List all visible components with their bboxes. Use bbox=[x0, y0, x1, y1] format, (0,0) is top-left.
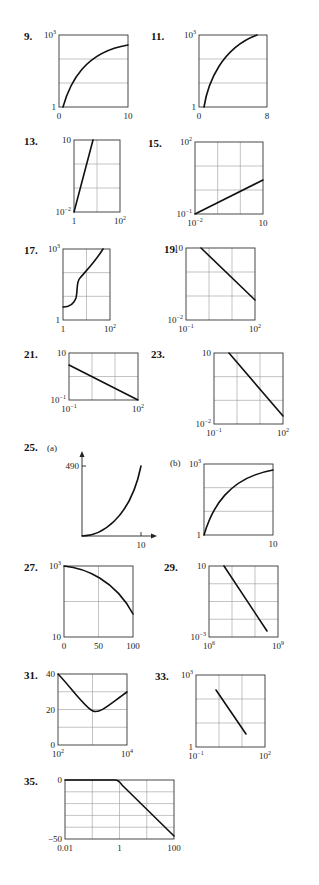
problem-number: 21. bbox=[24, 348, 38, 360]
y-tick-label: 20 bbox=[46, 705, 56, 715]
plot-frame bbox=[186, 248, 255, 320]
x-tick-label: 1 bbox=[117, 843, 122, 853]
x-tick-label: 102 bbox=[259, 750, 271, 761]
x-tick-label: 102 bbox=[277, 427, 289, 438]
plot-frame bbox=[195, 142, 263, 214]
problem-number: 19. bbox=[164, 243, 178, 255]
y-tick-label: 40 bbox=[46, 669, 56, 679]
chart-21: 1010−110−110221. bbox=[24, 348, 144, 414]
y-tick-label: 490 bbox=[66, 461, 80, 471]
problem-number: 25. bbox=[24, 441, 38, 453]
y-tick-label: 10 bbox=[52, 632, 62, 642]
data-curve bbox=[82, 466, 141, 536]
sublabel: (b) bbox=[170, 458, 181, 468]
y-tick-label: 103 bbox=[48, 243, 60, 254]
data-curve bbox=[69, 365, 138, 400]
x-tick-label: 102 bbox=[249, 323, 261, 334]
graphs-canvas: 10310109.10310811.1010−2110213.10210−110… bbox=[0, 0, 319, 885]
chart-23: 1010−210−110223. bbox=[151, 348, 289, 438]
x-tick-label: 0.01 bbox=[57, 843, 73, 853]
y-tick-label: 102 bbox=[180, 136, 192, 147]
problem-number: 17. bbox=[24, 244, 38, 256]
x-tick-label: 10−1 bbox=[61, 403, 76, 414]
data-curve bbox=[63, 45, 128, 107]
problem-number: 33. bbox=[155, 670, 169, 682]
y-tick-label: 10 bbox=[57, 348, 67, 358]
data-curve bbox=[224, 566, 267, 631]
chart-35: 0−500.01110035. bbox=[24, 775, 181, 853]
chart-9: 10310109. bbox=[24, 29, 133, 121]
x-tick-label: 10 bbox=[269, 539, 279, 549]
data-curve bbox=[204, 470, 273, 535]
x-tick-label: 10 bbox=[137, 540, 147, 550]
chart-33: 103110−110233. bbox=[155, 669, 271, 761]
x-tick-label: 10−1 bbox=[206, 427, 221, 438]
chart-11: 10310811. bbox=[151, 29, 270, 121]
y-tick-label: 103 bbox=[49, 560, 61, 571]
x-tick-label: 10 bbox=[259, 218, 269, 228]
sublabel: (a) bbox=[47, 443, 57, 453]
problem-number: 31. bbox=[24, 669, 38, 681]
x-tick-label: 109 bbox=[272, 640, 284, 651]
plot-frame bbox=[214, 353, 283, 424]
x-tick-label: 0 bbox=[62, 641, 67, 651]
x-tick-label: 0 bbox=[197, 111, 202, 121]
x-tick-label: 102 bbox=[114, 215, 126, 226]
problem-number: 35. bbox=[24, 775, 38, 787]
x-tick-label: 10−1 bbox=[178, 323, 193, 334]
answer-graphs-page: 10310109.10310811.1010−2110213.10210−110… bbox=[0, 0, 319, 885]
y-tick-label: 1 bbox=[56, 315, 61, 325]
x-tick-label: 0 bbox=[57, 111, 62, 121]
y-tick-label: 1 bbox=[197, 530, 202, 540]
x-tick-label: 1 bbox=[61, 324, 66, 334]
data-curve bbox=[195, 180, 263, 214]
y-tick-label: 103 bbox=[189, 458, 201, 469]
problem-number: 27. bbox=[24, 561, 38, 573]
x-tick-label: 100 bbox=[126, 641, 140, 651]
data-curve bbox=[216, 690, 246, 734]
x-tick-label: 102 bbox=[52, 748, 64, 759]
problem-number: 23. bbox=[151, 348, 165, 360]
chart-27: 1031005010027. bbox=[24, 560, 140, 651]
x-tick-label: 50 bbox=[94, 641, 104, 651]
chart-31: 4020010210431. bbox=[24, 669, 133, 759]
problem-number: 11. bbox=[151, 30, 164, 42]
chart-25a: 4901025.(a) bbox=[24, 441, 157, 550]
x-tick-label: 102 bbox=[132, 403, 144, 414]
x-tick-label: 106 bbox=[203, 640, 215, 651]
y-arrow-icon bbox=[80, 451, 85, 457]
chart-15: 10210−110−21015. bbox=[148, 136, 268, 228]
chart-17: 1031110217. bbox=[24, 243, 116, 334]
y-tick-label: 0 bbox=[58, 775, 63, 785]
data-curve bbox=[74, 140, 93, 212]
y-tick-label: 1 bbox=[192, 102, 197, 112]
x-tick-label: 102 bbox=[104, 323, 116, 334]
x-tick-label: 104 bbox=[121, 748, 133, 759]
plot-frame bbox=[199, 35, 267, 107]
y-tick-label: 10 bbox=[197, 561, 207, 571]
y-tick-label: 10 bbox=[202, 348, 212, 358]
data-curve bbox=[63, 249, 103, 307]
y-tick-label: 103 bbox=[181, 669, 193, 680]
chart-19: 1010−210−110219. bbox=[164, 243, 261, 334]
x-arrow-icon bbox=[151, 534, 157, 539]
plot-frame bbox=[204, 464, 273, 535]
x-tick-label: 10−1 bbox=[188, 750, 203, 761]
x-tick-label: 10 bbox=[124, 111, 134, 121]
y-tick-label: 1 bbox=[52, 102, 57, 112]
x-tick-label: 1 bbox=[72, 216, 77, 226]
problem-number: 15. bbox=[148, 137, 162, 149]
y-tick-label: 103 bbox=[44, 29, 56, 40]
y-tick-label: 10−2 bbox=[56, 206, 71, 217]
problem-number: 29. bbox=[164, 561, 178, 573]
chart-25b: 103110(b) bbox=[170, 458, 278, 549]
x-tick-label: 100 bbox=[167, 843, 181, 853]
x-tick-label: 10−2 bbox=[187, 217, 202, 228]
problem-number: 13. bbox=[24, 135, 38, 147]
y-tick-label: 103 bbox=[184, 29, 196, 40]
problem-number: 9. bbox=[24, 30, 33, 42]
y-tick-label: 10 bbox=[62, 135, 72, 145]
chart-13: 1010−2110213. bbox=[24, 135, 126, 226]
plot-frame bbox=[59, 35, 128, 107]
x-tick-label: 8 bbox=[265, 111, 270, 121]
